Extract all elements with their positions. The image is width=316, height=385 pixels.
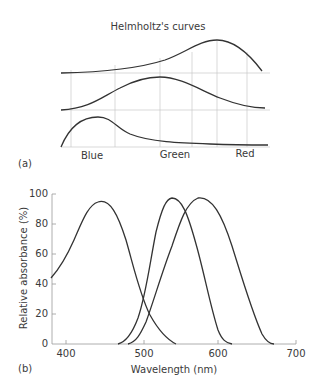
panel-a-grid xyxy=(61,40,270,147)
panel-b: 100 80 60 40 20 0 400 500 600 700 Wavele… xyxy=(18,188,306,375)
y-tick-100: 100 xyxy=(29,188,48,199)
axes xyxy=(52,194,296,344)
panel-a: Helmholtz's curves Blue Green Red (a) xyxy=(18,21,270,169)
x-axis-title: Wavelength (nm) xyxy=(131,364,217,375)
absorbance-curves xyxy=(51,198,274,344)
red-cone-curve xyxy=(128,198,274,344)
helmholtz-green-curve xyxy=(61,77,265,110)
label-blue: Blue xyxy=(81,150,103,161)
x-tick-600: 600 xyxy=(208,348,227,359)
label-green: Green xyxy=(160,149,190,160)
x-tick-labels: 400 500 600 700 xyxy=(56,348,305,359)
blue-cone-curve xyxy=(51,201,176,344)
panel-a-curves xyxy=(61,40,268,147)
y-tick-60: 60 xyxy=(35,248,48,259)
y-tick-0: 0 xyxy=(42,338,48,349)
panel-a-label: (a) xyxy=(18,158,32,169)
y-axis-title: Relative absorbance (%) xyxy=(18,207,29,329)
y-tick-80: 80 xyxy=(35,218,48,229)
panel-a-title: Helmholtz's curves xyxy=(111,21,206,32)
y-tick-20: 20 xyxy=(35,308,48,319)
y-tick-labels: 100 80 60 40 20 0 xyxy=(29,188,48,349)
helmholtz-blue-curve xyxy=(61,117,268,147)
label-red: Red xyxy=(236,148,255,159)
x-tick-500: 500 xyxy=(134,348,153,359)
panel-b-label: (b) xyxy=(18,363,32,374)
figure: Helmholtz's curves Blue Green Red (a) xyxy=(0,0,316,385)
helmholtz-red-curve xyxy=(61,40,262,73)
x-tick-700: 700 xyxy=(286,348,305,359)
y-tick-40: 40 xyxy=(35,278,48,289)
x-tick-400: 400 xyxy=(56,348,75,359)
